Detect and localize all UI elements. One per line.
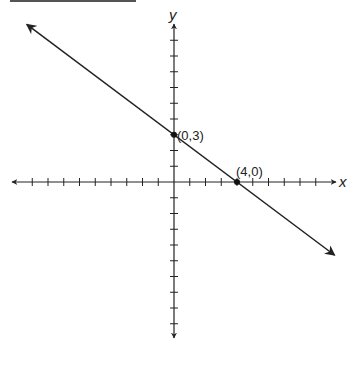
coordinate-plane: (0,3) (4,0) x y bbox=[0, 0, 363, 368]
point-label-4-0: (4,0) bbox=[236, 164, 263, 179]
point-label-0-3: (0,3) bbox=[177, 128, 204, 143]
y-axis-label: y bbox=[168, 6, 178, 23]
point-4-0 bbox=[234, 179, 240, 185]
x-axis-label: x bbox=[338, 173, 347, 190]
